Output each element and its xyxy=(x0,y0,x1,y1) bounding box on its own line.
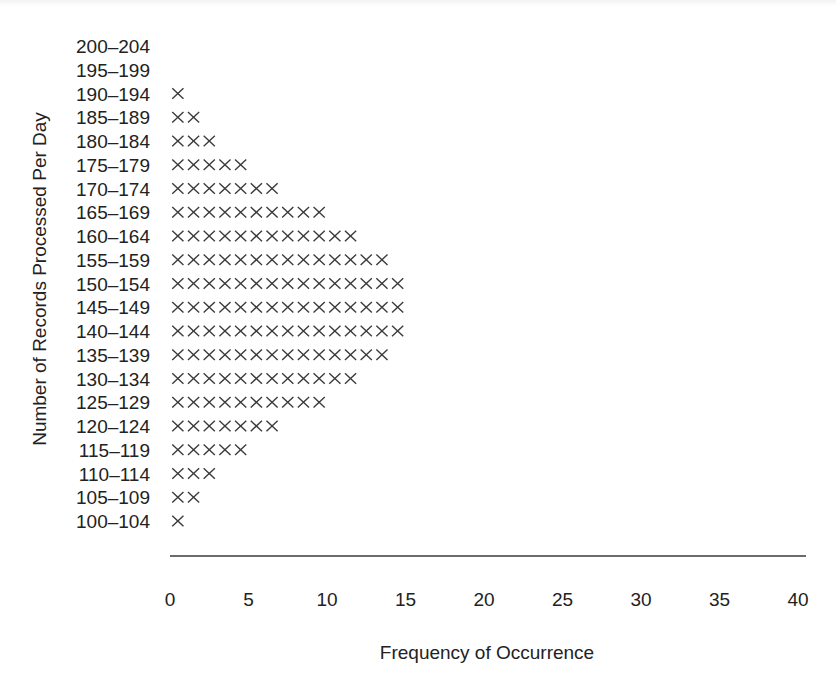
x-mark xyxy=(314,350,325,360)
x-mark xyxy=(266,207,277,217)
x-mark xyxy=(282,373,293,383)
category-label: 140–144 xyxy=(76,321,150,342)
x-mark xyxy=(219,302,230,312)
category-label: 130–134 xyxy=(76,369,150,390)
x-tick-label: 5 xyxy=(243,589,254,610)
x-mark xyxy=(219,278,230,288)
x-marks xyxy=(172,88,403,526)
category-labels: 200–204195–199190–194185–189180–184175–1… xyxy=(76,36,150,532)
x-mark xyxy=(345,373,356,383)
x-mark xyxy=(172,326,183,336)
x-mark xyxy=(266,350,277,360)
x-mark xyxy=(204,207,215,217)
category-label: 160–164 xyxy=(76,226,150,247)
category-label: 115–119 xyxy=(79,440,150,461)
x-mark xyxy=(235,207,246,217)
category-label: 180–184 xyxy=(76,131,150,152)
category-label: 175–179 xyxy=(76,155,150,176)
x-mark xyxy=(376,278,387,288)
x-mark xyxy=(251,278,262,288)
x-mark xyxy=(251,397,262,407)
x-tick-label: 15 xyxy=(395,589,416,610)
x-mark xyxy=(298,397,309,407)
x-mark xyxy=(345,326,356,336)
x-mark xyxy=(266,183,277,193)
category-label: 120–124 xyxy=(76,416,150,437)
x-mark xyxy=(345,302,356,312)
x-mark xyxy=(172,88,183,98)
x-mark xyxy=(172,373,183,383)
x-mark xyxy=(392,278,403,288)
x-mark xyxy=(172,445,183,455)
x-mark xyxy=(235,255,246,265)
x-mark xyxy=(266,231,277,241)
x-mark xyxy=(266,397,277,407)
x-mark xyxy=(329,373,340,383)
x-mark xyxy=(204,397,215,407)
category-label: 110–114 xyxy=(79,464,151,485)
x-mark xyxy=(235,278,246,288)
x-mark xyxy=(188,183,199,193)
category-label: 190–194 xyxy=(76,84,150,105)
x-mark xyxy=(188,207,199,217)
x-axis-title: Frequency of Occurrence xyxy=(380,642,594,663)
x-mark xyxy=(282,255,293,265)
x-mark xyxy=(235,350,246,360)
x-mark xyxy=(235,326,246,336)
x-mark xyxy=(329,350,340,360)
x-mark xyxy=(188,326,199,336)
x-mark xyxy=(188,302,199,312)
x-mark xyxy=(298,302,309,312)
x-mark xyxy=(172,397,183,407)
x-mark xyxy=(219,231,230,241)
x-mark xyxy=(329,255,340,265)
x-mark xyxy=(172,421,183,431)
x-mark xyxy=(172,492,183,502)
category-label: 125–129 xyxy=(76,392,150,413)
x-mark xyxy=(329,231,340,241)
x-mark xyxy=(266,302,277,312)
x-mark xyxy=(314,326,325,336)
x-mark xyxy=(251,207,262,217)
x-mark xyxy=(251,326,262,336)
x-mark xyxy=(298,255,309,265)
x-mark xyxy=(314,397,325,407)
x-mark xyxy=(392,302,403,312)
x-tick-label: 35 xyxy=(709,589,730,610)
category-label: 155–159 xyxy=(76,250,150,271)
x-mark xyxy=(329,302,340,312)
x-mark xyxy=(314,302,325,312)
x-mark xyxy=(298,278,309,288)
category-label: 105–109 xyxy=(76,487,150,508)
x-mark xyxy=(219,350,230,360)
x-mark xyxy=(251,373,262,383)
x-tick-label: 30 xyxy=(630,589,651,610)
x-mark xyxy=(361,278,372,288)
x-mark xyxy=(376,302,387,312)
x-mark xyxy=(188,112,199,122)
x-mark xyxy=(188,231,199,241)
x-mark xyxy=(219,207,230,217)
x-mark xyxy=(172,112,183,122)
x-mark xyxy=(345,255,356,265)
x-mark xyxy=(204,183,215,193)
x-mark xyxy=(251,302,262,312)
x-mark xyxy=(219,397,230,407)
x-mark xyxy=(235,373,246,383)
x-mark xyxy=(204,302,215,312)
x-mark xyxy=(266,278,277,288)
x-tick-labels: 0510152025303540 xyxy=(165,589,809,610)
x-mark xyxy=(188,397,199,407)
x-mark xyxy=(204,278,215,288)
x-mark xyxy=(172,278,183,288)
category-label: 165–169 xyxy=(76,202,150,223)
x-mark xyxy=(204,160,215,170)
category-label: 170–174 xyxy=(76,179,150,200)
category-label: 185–189 xyxy=(76,107,150,128)
x-mark xyxy=(188,350,199,360)
x-mark xyxy=(219,445,230,455)
category-label: 100–104 xyxy=(76,511,150,532)
category-label: 150–154 xyxy=(76,274,150,295)
x-mark xyxy=(314,231,325,241)
x-mark xyxy=(188,278,199,288)
